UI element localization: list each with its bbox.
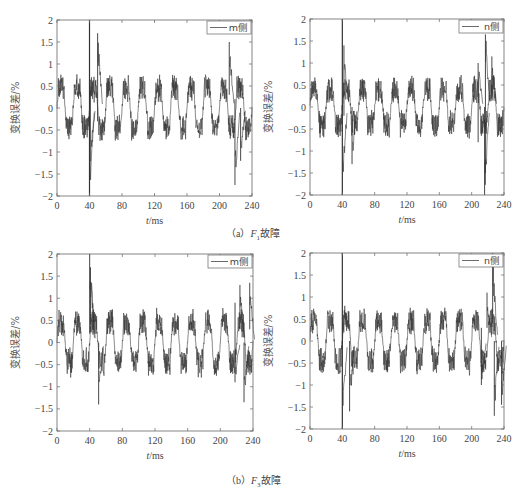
legend-label: n侧	[484, 255, 500, 266]
x-tick-label: 120	[400, 433, 415, 444]
line-chart: 21.510.50−0.5−1−1.5−204080120160200240t/…	[0, 0, 522, 492]
x-tick-label: 160	[432, 433, 447, 444]
y-tick-label: 2	[301, 248, 306, 259]
legend: n侧	[459, 254, 503, 267]
x-tick-label: 240	[497, 433, 512, 444]
x-axis-label: t/ms	[398, 448, 415, 459]
y-axis-label: 变换误差/%	[262, 315, 274, 368]
caption-b: （b）F3故障	[226, 472, 281, 489]
caption-suffix: 故障	[261, 475, 281, 486]
y-tick-label: 1	[301, 292, 306, 303]
x-tick-label: 0	[308, 433, 313, 444]
y-tick-label: 1.5	[294, 270, 307, 281]
y-tick-label: 0.5	[294, 314, 307, 325]
y-tick-label: −0.5	[288, 358, 306, 369]
x-tick-label: 40	[337, 433, 347, 444]
y-tick-label: 0	[301, 336, 306, 347]
chart-panel-b-right: 21.510.50−0.5−1−1.5−204080120160200240t/…	[0, 0, 522, 492]
y-tick-label: −2	[295, 424, 306, 435]
y-tick-label: −1.5	[288, 402, 306, 413]
caption-prefix: （b）	[226, 475, 251, 486]
signal-line	[310, 306, 504, 376]
y-tick-label: −1	[295, 380, 306, 391]
x-tick-label: 200	[464, 433, 479, 444]
x-tick-label: 80	[370, 433, 380, 444]
